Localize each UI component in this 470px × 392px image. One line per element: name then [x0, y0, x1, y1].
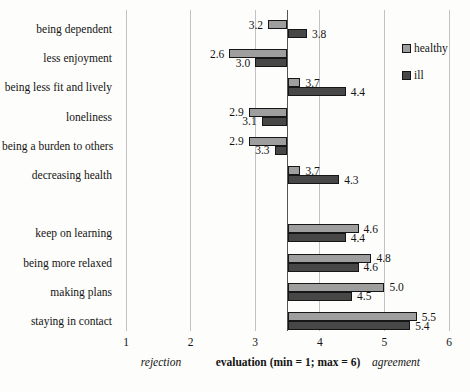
healthy-bar — [268, 20, 287, 29]
x-tick-label: 4 — [308, 336, 332, 348]
gridline — [449, 10, 450, 331]
value-label: 4.6 — [364, 261, 394, 273]
legend-label-ill: ill — [414, 69, 424, 81]
category-label: being dependent — [2, 22, 112, 36]
category-label: loneliness — [2, 110, 112, 124]
ill-bar — [262, 117, 288, 126]
value-label: 3.1 — [227, 115, 257, 127]
ill-bar — [288, 263, 359, 272]
legend-item-healthy: healthy — [402, 42, 448, 54]
legend: healthy ill — [402, 42, 448, 81]
gridline — [126, 10, 127, 331]
value-label: 3.0 — [220, 57, 250, 69]
legend-swatch-ill-icon — [402, 71, 411, 80]
category-label: being less fit and lively — [2, 80, 112, 94]
x-tick-label: 1 — [114, 336, 138, 348]
value-label: 3.8 — [312, 28, 342, 40]
category-label: decreasing health — [2, 168, 112, 182]
value-label: 4.4 — [351, 232, 381, 244]
x-tick-label: 6 — [437, 336, 461, 348]
value-label: 3.2 — [233, 19, 263, 31]
legend-item-ill: ill — [402, 69, 448, 81]
ill-bar — [288, 321, 411, 330]
category-label: being more relaxed — [2, 256, 112, 270]
legend-label-healthy: healthy — [414, 42, 448, 54]
category-label: keep on learning — [2, 226, 112, 240]
value-label: 4.5 — [357, 290, 387, 302]
category-label: staying in contact — [2, 314, 112, 328]
value-label: 3.3 — [240, 144, 270, 156]
axis-annotation-agreement: agreement — [336, 355, 456, 369]
healthy-bar — [288, 254, 372, 263]
healthy-bar — [288, 78, 301, 87]
ill-bar — [288, 292, 353, 301]
ill-bar — [288, 87, 346, 96]
ill-bar — [288, 175, 340, 184]
gridline — [190, 10, 191, 331]
value-label: 5.4 — [415, 320, 445, 332]
category-label: less enjoyment — [2, 51, 112, 65]
x-tick-label: 3 — [243, 336, 267, 348]
ill-bar — [288, 233, 346, 242]
x-tick-label: 5 — [372, 336, 396, 348]
value-label: 4.3 — [344, 174, 374, 186]
healthy-bar — [288, 166, 301, 175]
x-tick-label: 2 — [179, 336, 203, 348]
bar-chart-figure: 123456being dependent3.23.8less enjoymen… — [0, 0, 470, 392]
category-label: making plans — [2, 285, 112, 299]
plot-area: 123456being dependent3.23.8less enjoymen… — [0, 0, 470, 392]
healthy-bar — [288, 312, 417, 321]
value-label: 5.0 — [389, 281, 419, 293]
ill-bar — [255, 58, 287, 67]
legend-swatch-healthy-icon — [402, 44, 411, 53]
value-label: 4.4 — [351, 86, 381, 98]
ill-bar — [288, 29, 307, 38]
category-label: being a burden to others — [2, 139, 112, 153]
healthy-bar — [288, 224, 359, 233]
ill-bar — [275, 146, 288, 155]
